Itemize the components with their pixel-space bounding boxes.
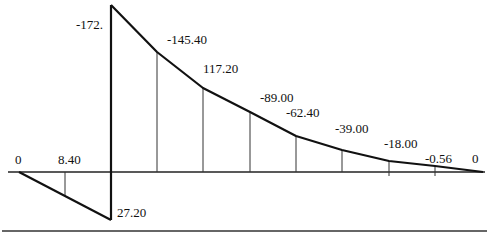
label-v7: -0.56: [425, 152, 452, 165]
label-end: 0: [472, 152, 479, 165]
label-pos-peak: -172.: [76, 18, 103, 31]
label-v6: -18.00: [384, 137, 418, 150]
label-v2: 117.20: [203, 62, 238, 75]
label-v1: -145.40: [167, 33, 207, 46]
label-v5: -39.00: [335, 122, 369, 135]
label-neg-peak: 27.20: [117, 206, 146, 219]
label-v4: -62.40: [286, 106, 320, 119]
label-neg-mid: 8.40: [58, 153, 81, 166]
shear-diagram-canvas: [0, 0, 489, 236]
label-start: 0: [15, 153, 22, 166]
label-v3: -89.00: [260, 91, 294, 104]
positive-region-curve: [111, 5, 483, 172]
